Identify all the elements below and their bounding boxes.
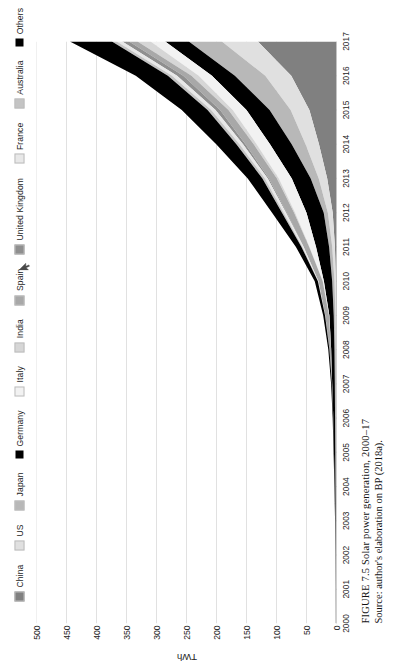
chart-legend: ChinaUSJapanGermanyItalyIndiaSpainUnited… xyxy=(6,41,32,601)
legend-label: France xyxy=(14,122,24,149)
legend-item-spain[interactable]: Spain xyxy=(14,268,24,304)
legend-label: United Kingdom xyxy=(14,177,24,240)
x-tick-label: 2014 xyxy=(340,134,350,153)
x-tick-label: 2000 xyxy=(340,614,350,633)
y-tick-label: 100 xyxy=(271,625,281,651)
y-tick-label: 400 xyxy=(91,625,101,651)
figure-page: ChinaUSJapanGermanyItalyIndiaSpainUnited… xyxy=(0,0,415,663)
y-tick-label: 150 xyxy=(241,625,251,651)
legend-swatch-icon xyxy=(14,386,24,396)
x-tick-label: 2016 xyxy=(340,66,350,85)
x-tick-label: 2007 xyxy=(340,374,350,393)
legend-item-us[interactable]: US xyxy=(14,524,24,550)
y-tick-label: 500 xyxy=(31,625,41,651)
y-axis-ticks: 050100150200250300350400450500 xyxy=(36,623,336,649)
plot-area xyxy=(36,41,336,623)
x-tick-label: 2015 xyxy=(340,100,350,119)
x-tick-label: 2006 xyxy=(340,408,350,427)
mouse-cursor-icon xyxy=(18,261,30,270)
x-tick-label: 2009 xyxy=(340,306,350,325)
y-tick-label: 50 xyxy=(301,625,311,651)
legend-label: Others xyxy=(14,7,24,33)
legend-item-italy[interactable]: Italy xyxy=(14,366,24,396)
legend-item-united-kingdom[interactable]: United Kingdom xyxy=(14,177,24,254)
y-tick-label: 200 xyxy=(211,625,221,651)
legend-label: Japan xyxy=(14,472,24,496)
legend-label: Spain xyxy=(14,268,24,290)
legend-label: Italy xyxy=(14,366,24,382)
y-tick-label: 450 xyxy=(61,625,71,651)
legend-item-germany[interactable]: Germany xyxy=(14,410,24,458)
legend-swatch-icon xyxy=(14,591,24,601)
legend-swatch-icon xyxy=(14,500,24,510)
x-axis-ticks: 2000200120022003200420052006200720082009… xyxy=(338,41,354,623)
legend-swatch-icon xyxy=(14,342,24,352)
legend-item-japan[interactable]: Japan xyxy=(14,472,24,510)
legend-swatch-icon xyxy=(14,153,24,163)
legend-swatch-icon xyxy=(14,244,24,254)
x-tick-label: 2010 xyxy=(340,271,350,290)
legend-swatch-icon xyxy=(15,450,23,458)
legend-swatch-icon xyxy=(14,540,24,550)
x-tick-label: 2011 xyxy=(340,237,350,255)
legend-swatch-icon xyxy=(14,295,24,305)
legend-item-australia[interactable]: Australia xyxy=(14,60,24,108)
y-axis-title-label: TWh xyxy=(176,652,196,663)
y-tick-label: 300 xyxy=(151,625,161,651)
x-tick-label: 2013 xyxy=(340,169,350,188)
legend-label: US xyxy=(14,524,24,536)
legend-label: China xyxy=(14,564,24,587)
legend-swatch-icon xyxy=(15,38,23,46)
legend-label: Australia xyxy=(14,60,24,94)
figure-container: ChinaUSJapanGermanyItalyIndiaSpainUnited… xyxy=(0,0,415,663)
stacked-area-chart xyxy=(36,41,336,623)
caption-title: FIGURE 7.5 Solar power generation, 2000–… xyxy=(358,23,371,623)
x-tick-label: 2004 xyxy=(340,477,350,496)
y-tick-label: 250 xyxy=(181,625,191,651)
legend-label: Germany xyxy=(14,410,24,446)
legend-swatch-icon xyxy=(14,98,24,108)
x-tick-label: 2008 xyxy=(340,340,350,359)
legend-label: India xyxy=(14,319,24,338)
legend-item-china[interactable]: China xyxy=(14,564,24,601)
legend-item-france[interactable]: France xyxy=(14,122,24,163)
y-tick-label: 350 xyxy=(121,625,131,651)
x-tick-label: 2003 xyxy=(340,511,350,530)
y-tick-label: 0 xyxy=(331,625,341,651)
legend-item-others[interactable]: Others xyxy=(14,7,24,45)
figure-caption: FIGURE 7.5 Solar power generation, 2000–… xyxy=(358,23,384,623)
x-tick-label: 2002 xyxy=(340,545,350,564)
x-tick-label: 2017 xyxy=(340,32,350,51)
caption-source: Source: author's elaboration on BP (2018… xyxy=(371,23,384,623)
x-tick-label: 2005 xyxy=(340,443,350,462)
x-tick-label: 2012 xyxy=(340,203,350,222)
x-tick-label: 2001 xyxy=(340,579,350,598)
legend-item-india[interactable]: India xyxy=(14,319,24,352)
